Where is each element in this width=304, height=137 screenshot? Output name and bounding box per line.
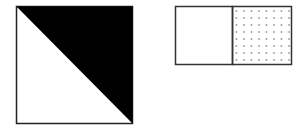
two-part-rectangle	[176, 7, 292, 65]
diagonal-square	[17, 7, 133, 124]
blank-half	[176, 7, 233, 65]
diagonal-split-square	[0, 0, 304, 137]
dotted-half	[233, 7, 292, 65]
